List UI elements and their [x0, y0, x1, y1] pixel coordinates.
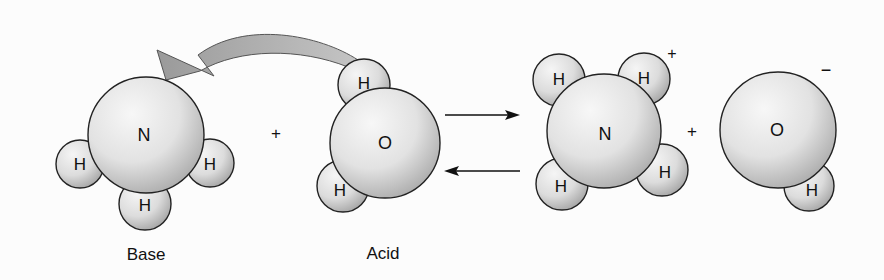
reverse-arrow-icon	[444, 166, 520, 176]
svg-text:H: H	[334, 181, 346, 200]
diagram-canvas: N H H H + O H H N H H H H + +	[0, 0, 884, 280]
forward-arrow-icon	[445, 110, 520, 120]
svg-text:H: H	[358, 74, 370, 93]
svg-text:H: H	[74, 155, 86, 174]
acid-caption: Acid	[366, 244, 399, 264]
hydroxide-ion-oh: O H −	[720, 60, 836, 211]
svg-text:H: H	[139, 196, 151, 215]
plus-sign: +	[271, 124, 281, 143]
svg-text:H: H	[659, 163, 671, 182]
positive-charge: +	[667, 45, 676, 62]
svg-text:O: O	[378, 133, 392, 153]
curved-arrow-icon	[157, 34, 358, 80]
svg-text:N: N	[599, 124, 612, 144]
negative-charge: −	[821, 60, 832, 80]
svg-text:H: H	[806, 181, 818, 200]
svg-text:O: O	[770, 120, 784, 140]
acid-molecule-h2o: O H H	[317, 59, 440, 212]
plus-sign: +	[687, 122, 697, 141]
base-caption: Base	[127, 245, 166, 265]
acid-base-diagram: N H H H + O H H N H H H H + +	[0, 0, 884, 280]
base-molecule-nh3: N H H H	[56, 77, 234, 230]
svg-text:N: N	[138, 125, 151, 145]
ammonium-ion-nh4: N H H H H +	[533, 45, 688, 211]
svg-text:H: H	[555, 177, 567, 196]
svg-text:H: H	[204, 155, 216, 174]
svg-text:H: H	[553, 70, 565, 89]
svg-text:H: H	[638, 69, 650, 88]
